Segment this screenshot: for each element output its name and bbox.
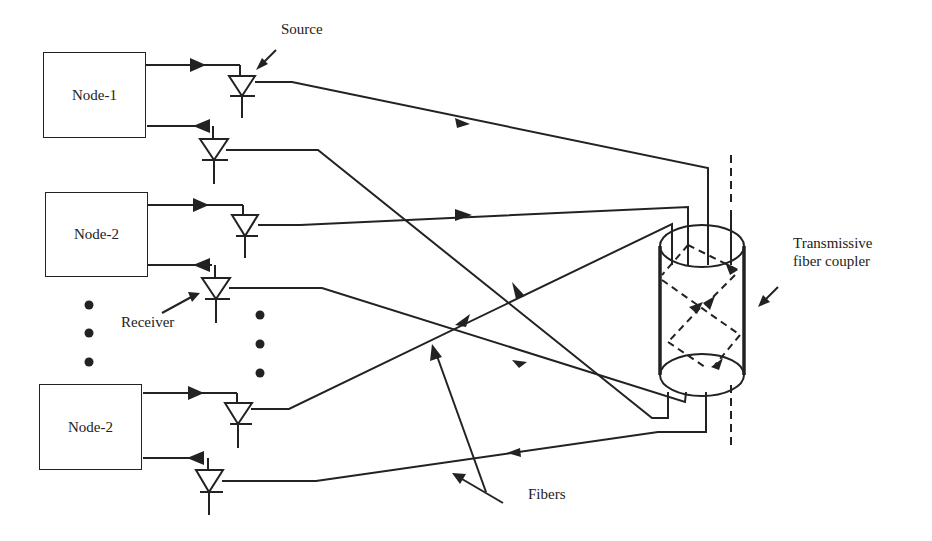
receiver-diode-icon: [202, 278, 230, 323]
fiber-4: [229, 288, 686, 402]
node-1-box: Node-1: [43, 52, 146, 138]
coupler-label-line2: fiber coupler: [793, 252, 872, 270]
node2a-rx-link: [148, 258, 215, 278]
coupler-label-line1: Transmissive: [793, 234, 872, 252]
transmissive-fiber-coupler: [660, 155, 744, 450]
receiver-diode-icon: [196, 470, 223, 515]
fiber-3: [258, 207, 688, 265]
fiber-5: [251, 224, 672, 409]
receiver-pointer-arrow: [162, 292, 200, 313]
receiver-diode-icon: [200, 139, 228, 184]
fiber-1: [255, 82, 708, 265]
node-label: Node-2: [74, 226, 119, 243]
fibers-label: Fibers: [528, 486, 566, 503]
node2a-tx-link: [147, 198, 243, 215]
source-label: Source: [281, 21, 323, 38]
source-diode-icon: [225, 403, 252, 448]
node-2b-box: Node-2: [39, 384, 142, 470]
coupler-pointer-arrow: [758, 287, 778, 307]
ellipsis-dots: [85, 301, 265, 378]
source-diode-icon: [229, 76, 255, 118]
fiber-2: [226, 150, 668, 418]
node2b-rx-link: [143, 451, 208, 470]
node1-tx-link: [145, 58, 240, 76]
coupler-label: Transmissive fiber coupler: [793, 234, 872, 270]
node2b-tx-link: [143, 386, 237, 403]
node-label: Node-2: [68, 419, 113, 436]
source-pointer-arrow: [256, 50, 276, 70]
source-diode-icon: [232, 215, 258, 258]
node-2-box: Node-2: [45, 192, 148, 277]
node-label: Node-1: [72, 87, 117, 104]
receiver-label: Receiver: [121, 314, 174, 331]
fibers-pointer-arrows: [430, 344, 503, 503]
node1-rx-link: [147, 119, 213, 139]
